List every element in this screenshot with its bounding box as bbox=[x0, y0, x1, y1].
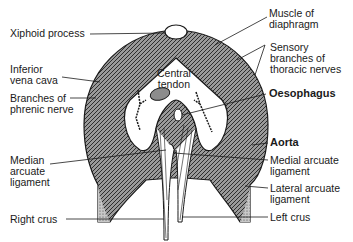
label-aorta: Aorta bbox=[270, 137, 299, 148]
label-median-arcuate-ligament: Median arcuate ligament bbox=[10, 155, 50, 188]
xiphoid-process bbox=[165, 25, 187, 39]
label-lateral-arcuate-ligament: Lateral arcuate ligament bbox=[270, 183, 340, 205]
label-oesophagus: Oesophagus bbox=[269, 88, 336, 99]
diaphragm-diagram: Xiphoid process Inferior vena cava Branc… bbox=[0, 0, 353, 242]
label-right-crus: Right crus bbox=[10, 214, 57, 225]
label-left-crus: Left crus bbox=[270, 212, 310, 223]
label-branches-phrenic-nerve: Branches of phrenic nerve bbox=[10, 93, 74, 115]
oesophagus-opening bbox=[174, 109, 182, 121]
label-medial-arcuate-ligament: Medial arcuate ligament bbox=[270, 155, 339, 177]
label-sensory-branches: Sensory branches of thoracic nerves bbox=[270, 42, 341, 75]
label-xiphoid-process: Xiphoid process bbox=[10, 28, 85, 39]
label-muscle-of-diaphragm: Muscle of diaphragm bbox=[269, 8, 319, 30]
label-central-tendon: Central tendon bbox=[157, 68, 191, 90]
label-inferior-vena-cava: Inferior vena cava bbox=[10, 64, 58, 86]
